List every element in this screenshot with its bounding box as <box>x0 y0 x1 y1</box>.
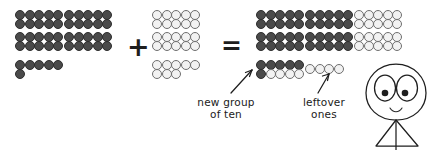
filled-dot <box>285 41 295 51</box>
filled-dot <box>53 60 63 70</box>
equals-operator: = <box>221 33 242 58</box>
filled-dot <box>294 41 304 51</box>
filled-dot <box>334 19 344 29</box>
filled-dot <box>102 41 112 51</box>
open-dot <box>181 60 191 70</box>
filled-dot <box>315 19 325 29</box>
open-dot <box>162 41 172 51</box>
filled-dot <box>64 19 74 29</box>
filled-dot <box>343 19 353 29</box>
filled-dot <box>34 41 44 51</box>
open-dot <box>354 19 364 29</box>
filled-dot <box>343 41 353 51</box>
open-dot <box>181 19 191 29</box>
filled-dot <box>25 60 35 70</box>
open-dot <box>266 69 276 79</box>
open-dot <box>190 60 200 70</box>
filled-dot <box>266 19 276 29</box>
open-dot <box>373 19 383 29</box>
filled-dot <box>15 19 25 29</box>
filled-dot <box>44 41 54 51</box>
arrow-to-leftover-ones-icon <box>318 74 329 93</box>
filled-dot <box>44 19 54 29</box>
open-dot <box>275 69 285 79</box>
filled-dot <box>256 19 266 29</box>
worksheet-illustration: + = new group of ten leftover ones <box>0 0 440 150</box>
open-dot <box>392 41 402 51</box>
filled-dot <box>324 19 334 29</box>
filled-dot <box>83 41 93 51</box>
open-dot <box>334 64 344 74</box>
filled-dot <box>334 41 344 51</box>
smiley-stick-figure-doodle <box>366 64 426 150</box>
open-dot <box>285 69 295 79</box>
filled-dot <box>34 60 44 70</box>
annotation-leftover-ones: leftover ones <box>292 96 356 121</box>
filled-dot <box>74 19 84 29</box>
arrow-to-new-group-icon <box>231 70 252 93</box>
filled-dot <box>15 41 25 51</box>
open-dot <box>181 41 191 51</box>
filled-dot <box>44 60 54 70</box>
filled-dot <box>53 41 63 51</box>
filled-dot <box>305 41 315 51</box>
filled-dot <box>25 19 35 29</box>
filled-dot <box>102 19 112 29</box>
open-dot <box>354 41 364 51</box>
filled-dot <box>53 19 63 29</box>
open-dot <box>383 19 393 29</box>
open-dot <box>364 41 374 51</box>
open-dot <box>383 41 393 51</box>
open-dot <box>190 41 200 51</box>
filled-dot <box>83 19 93 29</box>
filled-dot <box>256 69 266 79</box>
filled-dot <box>275 41 285 51</box>
plus-operator: + <box>127 33 150 60</box>
filled-dot <box>315 41 325 51</box>
open-dot <box>190 19 200 29</box>
filled-dot <box>25 41 35 51</box>
filled-dot <box>305 19 315 29</box>
filled-dot <box>266 41 276 51</box>
open-dot <box>315 64 325 74</box>
open-dot <box>373 41 383 51</box>
open-dot <box>392 19 402 29</box>
open-dot <box>171 41 181 51</box>
filled-dot <box>64 41 74 51</box>
filled-dot <box>275 19 285 29</box>
filled-dot <box>15 69 25 79</box>
open-dot <box>152 19 162 29</box>
open-dot <box>294 69 304 79</box>
open-dot <box>171 19 181 29</box>
open-dot <box>152 41 162 51</box>
open-dot <box>152 69 162 79</box>
open-dot <box>364 19 374 29</box>
open-dot <box>324 64 334 74</box>
open-dot <box>305 64 315 74</box>
open-dot <box>162 69 172 79</box>
filled-dot <box>285 19 295 29</box>
annotation-new-group-of-ten: new group of ten <box>174 96 278 121</box>
filled-dot <box>324 41 334 51</box>
filled-dot <box>256 41 266 51</box>
filled-dot <box>74 41 84 51</box>
filled-dot <box>93 19 103 29</box>
open-dot <box>171 69 181 79</box>
filled-dot <box>34 19 44 29</box>
open-dot <box>162 19 172 29</box>
filled-dot <box>294 19 304 29</box>
filled-dot <box>93 41 103 51</box>
